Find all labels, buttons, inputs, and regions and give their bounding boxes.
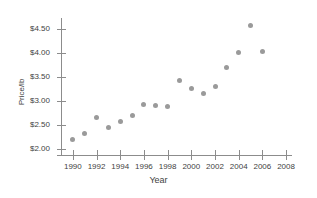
y-tick-label: $2.00 — [20, 144, 50, 153]
y-tick-mark — [57, 53, 66, 54]
data-point — [224, 65, 229, 70]
x-tick-mark — [73, 150, 74, 160]
x-axis-title: Year — [0, 175, 317, 185]
y-tick-mark — [57, 149, 66, 150]
data-point — [130, 113, 135, 118]
data-point — [165, 104, 170, 109]
data-point — [118, 119, 123, 124]
y-tick-mark — [57, 29, 66, 30]
data-point — [70, 137, 75, 142]
data-point — [141, 102, 146, 107]
data-point — [82, 131, 87, 136]
x-tick-mark — [97, 150, 98, 160]
data-point — [189, 86, 194, 91]
x-tick-mark — [144, 150, 145, 160]
y-axis-line — [61, 18, 62, 156]
y-tick-label: $2.50 — [20, 120, 50, 129]
data-point — [201, 91, 206, 96]
data-point — [177, 78, 182, 83]
y-tick-mark — [57, 101, 66, 102]
y-tick-label: $4.00 — [20, 48, 50, 57]
y-tick-mark — [57, 77, 66, 78]
data-point — [213, 84, 218, 89]
y-tick-label: $4.50 — [20, 24, 50, 33]
x-tick-mark — [239, 150, 240, 160]
data-point — [94, 115, 99, 120]
data-point — [260, 49, 265, 54]
y-tick-label: $3.00 — [20, 96, 50, 105]
y-tick-mark — [57, 125, 66, 126]
x-tick-mark — [262, 150, 263, 160]
x-tick-mark — [120, 150, 121, 160]
x-tick-mark — [168, 150, 169, 160]
data-point — [106, 125, 111, 130]
data-point — [153, 103, 158, 108]
x-tick-label: 2008 — [271, 162, 301, 171]
data-point — [236, 50, 241, 55]
x-tick-mark — [215, 150, 216, 160]
scatter-chart: Price/lb $2.00$2.50$3.00$3.50$4.00$4.50 … — [0, 0, 317, 198]
y-tick-label: $3.50 — [20, 72, 50, 81]
x-tick-mark — [286, 150, 287, 160]
x-tick-mark — [191, 150, 192, 160]
x-axis-line — [57, 155, 292, 156]
data-point — [248, 23, 253, 28]
